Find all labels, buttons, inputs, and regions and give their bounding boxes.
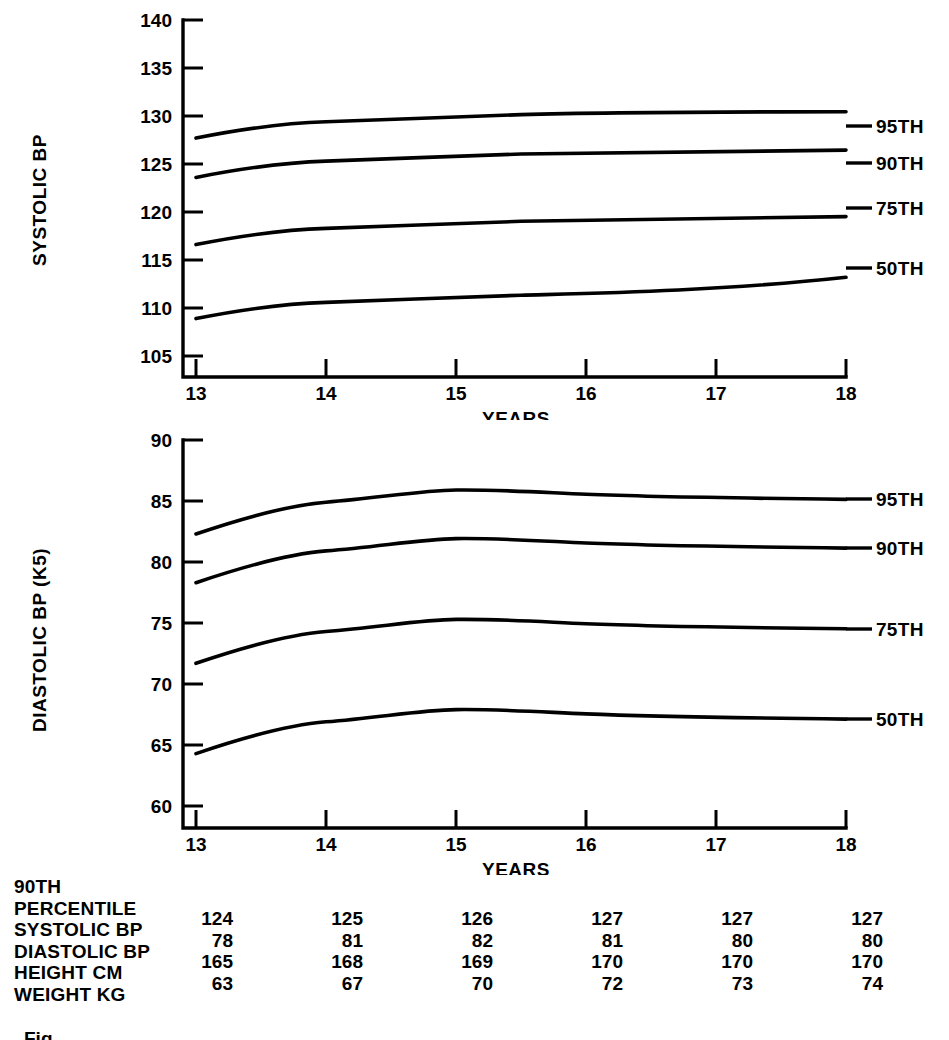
diastolic-ytick-65: 65: [151, 735, 173, 756]
diastolic-xtick-17: 17: [705, 834, 726, 855]
table-cell: 165: [159, 951, 233, 973]
table-cell: 67: [289, 973, 363, 995]
systolic-curve-90th: [196, 150, 846, 177]
table-cell: 70: [419, 973, 493, 995]
diastolic-ytick-70: 70: [151, 674, 172, 695]
diastolic-xtick-18: 18: [835, 834, 856, 855]
diastolic-curve-95th: [196, 490, 846, 534]
systolic-curve-95th: [196, 112, 846, 138]
table-cell: 127: [809, 908, 883, 930]
systolic-ytick-130: 130: [140, 106, 172, 127]
systolic-y-tick-marks: [183, 20, 203, 356]
table-header: 90TH PERCENTILE: [14, 876, 136, 919]
table-cell: 73: [679, 973, 753, 995]
systolic-x-axis-title: YEARS: [482, 408, 550, 420]
systolic-ytick-120: 120: [140, 202, 172, 223]
table-cell: 81: [549, 930, 623, 952]
diastolic-curve-leaders: [846, 499, 872, 719]
table-column-age13: 124 78 165 63: [159, 908, 233, 994]
systolic-xtick-17: 17: [705, 383, 726, 404]
table-cell: 170: [549, 951, 623, 973]
diastolic-curve-50th: [196, 710, 846, 754]
diastolic-xtick-14: 14: [315, 834, 337, 855]
diastolic-curve-90th: [196, 539, 846, 583]
systolic-label-95th: 95TH: [876, 116, 924, 137]
diastolic-ytick-60: 60: [151, 796, 172, 817]
table-cell: 169: [419, 951, 493, 973]
percentile-data-table: 90TH PERCENTILE SYSTOLIC BP DIASTOLIC BP…: [0, 876, 949, 1006]
table-cell: 127: [679, 908, 753, 930]
systolic-ytick-135: 135: [140, 58, 172, 79]
systolic-xtick-16: 16: [575, 383, 596, 404]
table-cell: 72: [549, 973, 623, 995]
diastolic-x-axis-title: YEARS: [482, 859, 550, 875]
systolic-ytick-115: 115: [141, 250, 172, 271]
row-label-height-cm: HEIGHT CM: [14, 962, 150, 984]
table-cell: 80: [679, 930, 753, 952]
row-label-systolic-bp: SYSTOLIC BP: [14, 919, 150, 941]
table-cell: 125: [289, 908, 363, 930]
systolic-label-90th: 90TH: [876, 153, 924, 174]
systolic-ytick-140: 140: [140, 10, 172, 31]
table-cell: 63: [159, 973, 233, 995]
table-cell: 170: [679, 951, 753, 973]
diastolic-curve-75th: [196, 619, 846, 663]
table-header-line2: PERCENTILE: [14, 898, 136, 920]
diastolic-ytick-80: 80: [151, 552, 172, 573]
diastolic-label-50th: 50TH: [876, 709, 924, 730]
systolic-axis-lines: [183, 20, 846, 377]
diastolic-ytick-90: 90: [151, 430, 172, 451]
diastolic-ytick-85: 85: [151, 491, 173, 512]
systolic-label-75th: 75TH: [876, 198, 924, 219]
table-row-labels: SYSTOLIC BP DIASTOLIC BP HEIGHT CM WEIGH…: [14, 919, 150, 1005]
table-column-age18: 127 80 170 74: [809, 908, 883, 994]
systolic-ytick-110: 110: [141, 298, 172, 319]
blood-pressure-percentile-figure: SYSTOLIC BP 140 135 130 125 120 115 110 …: [0, 0, 949, 1040]
systolic-label-50th: 50TH: [876, 258, 924, 279]
diastolic-ytick-75: 75: [151, 613, 173, 634]
table-cell: 124: [159, 908, 233, 930]
table-cell: 81: [289, 930, 363, 952]
systolic-ytick-105: 105: [140, 346, 172, 367]
diastolic-xtick-13: 13: [185, 834, 206, 855]
table-column-age16: 127 81 170 72: [549, 908, 623, 994]
diastolic-xtick-16: 16: [575, 834, 596, 855]
diastolic-label-75th: 75TH: [876, 619, 924, 640]
table-header-line1: 90TH: [14, 876, 136, 898]
table-cell: 126: [419, 908, 493, 930]
diastolic-label-95th: 95TH: [876, 489, 924, 510]
table-column-age15: 126 82 169 70: [419, 908, 493, 994]
table-cell: 82: [419, 930, 493, 952]
systolic-curve-leaders: [846, 126, 872, 268]
systolic-bp-chart: SYSTOLIC BP 140 135 130 125 120 115 110 …: [0, 0, 949, 420]
table-cell: 127: [549, 908, 623, 930]
table-cell: 80: [809, 930, 883, 952]
diastolic-label-90th: 90TH: [876, 538, 924, 559]
systolic-y-axis-title: SYSTOLIC BP: [29, 134, 50, 266]
systolic-xtick-18: 18: [835, 383, 856, 404]
systolic-xtick-14: 14: [315, 383, 337, 404]
table-cell: 168: [289, 951, 363, 973]
systolic-xtick-13: 13: [185, 383, 206, 404]
diastolic-y-axis-title: DIASTOLIC BP (K5): [29, 548, 50, 732]
figure-caption-stub: Fig: [24, 1028, 58, 1040]
systolic-curve-50th: [196, 277, 846, 318]
table-column-age14: 125 81 168 67: [289, 908, 363, 994]
table-cell: 78: [159, 930, 233, 952]
diastolic-xtick-15: 15: [445, 834, 467, 855]
row-label-diastolic-bp: DIASTOLIC BP: [14, 941, 150, 963]
table-cell: 170: [809, 951, 883, 973]
table-cell: 74: [809, 973, 883, 995]
diastolic-bp-chart: DIASTOLIC BP (K5) 90 85 80 75 70 65 60: [0, 425, 949, 875]
systolic-ytick-125: 125: [140, 154, 172, 175]
systolic-xtick-15: 15: [445, 383, 467, 404]
diastolic-x-tick-marks: [196, 810, 846, 828]
systolic-x-tick-marks: [196, 359, 846, 377]
table-column-age17: 127 80 170 73: [679, 908, 753, 994]
row-label-weight-kg: WEIGHT KG: [14, 984, 150, 1006]
systolic-curve-75th: [196, 217, 846, 245]
